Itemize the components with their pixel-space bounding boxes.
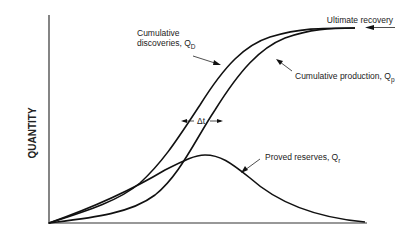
production-leader <box>280 62 292 71</box>
arrowhead-icon <box>276 59 283 65</box>
discoveries-label-line1: Cumulative <box>137 28 180 38</box>
arrowhead-icon <box>217 119 223 123</box>
discoveries-label-line2: discoveries, QD <box>137 38 196 50</box>
quantity-diagram: QUANTITY Ultimate recovery Cumulative di… <box>0 0 416 241</box>
reserves-leader <box>245 159 260 170</box>
ultimate-recovery-label: Ultimate recovery <box>327 15 394 25</box>
arrowhead-icon <box>365 25 374 30</box>
proved-reserves-curve <box>49 155 365 223</box>
arrowhead-icon <box>213 60 221 65</box>
reserves-label: Proved reserves, Qr <box>265 152 341 164</box>
y-axis-label: QUANTITY <box>27 107 38 158</box>
delta-t-label: Δt <box>197 116 206 126</box>
arrowhead-icon <box>181 119 187 123</box>
production-label: Cumulative production, Qp <box>295 71 395 84</box>
arrowhead-icon <box>241 166 248 173</box>
